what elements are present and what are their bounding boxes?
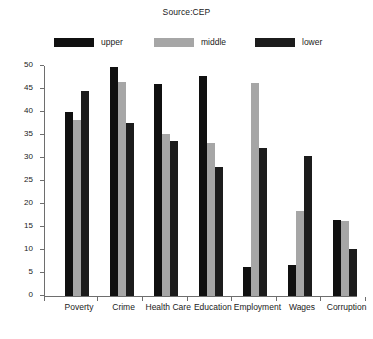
x-tick-3 [231, 297, 232, 301]
bar-middle-education[interactable] [207, 143, 215, 296]
x-axis-line [44, 296, 357, 297]
bar-upper-employment[interactable] [243, 267, 251, 296]
legend-swatch-middle [154, 38, 194, 47]
x-tick-4 [276, 297, 277, 301]
x-label-health-care: Health Care [146, 302, 191, 313]
x-label-poverty: Poverty [65, 302, 94, 313]
bar-upper-wages[interactable] [288, 265, 296, 296]
chart-legend: uppermiddlelower [54, 34, 324, 50]
bar-lower-health-care[interactable] [170, 141, 178, 296]
y-tick-35: 35 [40, 134, 44, 135]
bar-lower-poverty[interactable] [81, 91, 89, 296]
y-tick-label: 5 [29, 266, 33, 277]
bar-upper-crime[interactable] [110, 67, 118, 296]
bar-group-poverty [65, 66, 89, 296]
x-tick-origin [44, 297, 45, 301]
y-tick-label: 20 [24, 197, 33, 208]
y-tick-5: 5 [40, 272, 44, 273]
bar-middle-corruption[interactable] [341, 221, 349, 296]
x-label-wages: Wages [289, 302, 315, 313]
bar-group-health-care [154, 66, 178, 296]
y-tick-20: 20 [40, 203, 44, 204]
y-tick-25: 25 [40, 180, 44, 181]
y-tick-45: 45 [40, 88, 44, 89]
chart-title: Source:CEP [0, 7, 373, 17]
legend-swatch-lower [255, 38, 295, 47]
bar-middle-employment[interactable] [251, 83, 259, 296]
x-label-crime: Crime [112, 302, 135, 313]
bar-group-wages [288, 66, 312, 296]
y-tick-50: 50 [40, 65, 44, 66]
bar-upper-health-care[interactable] [154, 84, 162, 296]
y-tick-label: 10 [24, 243, 33, 254]
bar-middle-poverty[interactable] [73, 120, 81, 296]
y-tick-label: 45 [24, 82, 33, 93]
y-tick-15: 15 [40, 226, 44, 227]
bar-middle-wages[interactable] [296, 211, 304, 296]
bar-lower-crime[interactable] [126, 123, 134, 296]
y-tick-label: 35 [24, 128, 33, 139]
y-tick-30: 30 [40, 157, 44, 158]
y-tick-label: 0 [29, 289, 33, 300]
y-tick-label: 25 [24, 174, 33, 185]
bar-upper-corruption[interactable] [333, 220, 341, 296]
bar-upper-poverty[interactable] [65, 112, 73, 296]
x-tick-0 [97, 297, 98, 301]
x-label-corruption: Corruption [327, 302, 367, 313]
legend-item-middle[interactable]: middle [154, 34, 226, 50]
bar-lower-corruption[interactable] [349, 249, 357, 296]
y-tick-label: 50 [24, 59, 33, 70]
x-tick-6 [365, 297, 366, 301]
bar-lower-education[interactable] [215, 167, 223, 296]
legend-item-lower[interactable]: lower [255, 34, 322, 50]
y-tick-label: 15 [24, 220, 33, 231]
bar-chart: Source:CEP uppermiddlelower 051015202530… [0, 0, 373, 339]
legend-item-upper[interactable]: upper [54, 34, 123, 50]
bar-group-crime [110, 66, 134, 296]
bar-lower-employment[interactable] [259, 148, 267, 296]
x-label-employment: Employment [234, 302, 281, 313]
x-tick-1 [142, 297, 143, 301]
legend-swatch-upper [54, 38, 94, 47]
plot-area: 05101520253035404550 PovertyCrimeHealth … [44, 66, 357, 297]
x-tick-2 [187, 297, 188, 301]
y-tick-label: 40 [24, 105, 33, 116]
bar-lower-wages[interactable] [304, 156, 312, 296]
y-axis-line [44, 66, 45, 297]
y-tick-0: 0 [40, 295, 44, 296]
legend-label-upper: upper [101, 37, 123, 47]
x-tick-5 [320, 297, 321, 301]
bar-middle-health-care[interactable] [162, 134, 170, 296]
legend-label-middle: middle [201, 37, 226, 47]
y-tick-10: 10 [40, 249, 44, 250]
bar-upper-education[interactable] [199, 76, 207, 296]
bar-group-education [199, 66, 223, 296]
bar-group-corruption [333, 66, 357, 296]
y-tick-40: 40 [40, 111, 44, 112]
legend-label-lower: lower [302, 37, 322, 47]
bar-group-employment [243, 66, 267, 296]
bar-middle-crime[interactable] [118, 82, 126, 296]
y-tick-label: 30 [24, 151, 33, 162]
x-label-education: Education [194, 302, 232, 313]
